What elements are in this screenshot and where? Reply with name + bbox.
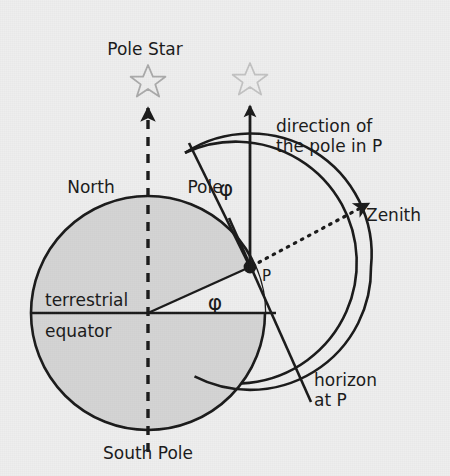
zenith-label: Zenith — [366, 205, 421, 225]
point-p-label: P — [262, 267, 271, 285]
phi-lower-label: φ — [208, 290, 223, 315]
south-pole-label: South Pole — [103, 443, 193, 463]
star-icon-pole-star-axis — [131, 65, 166, 97]
figure-canvas: Pole Star direction of the pole in P Nor… — [0, 0, 450, 476]
north-pole-label: North — [67, 177, 115, 197]
horizon-label-line2: at P — [314, 390, 347, 410]
pole-direction-label-line1: direction of — [276, 116, 373, 136]
pole-direction-label-line2: the pole in P — [276, 136, 382, 156]
north-pole-label-part2: Pole — [187, 177, 222, 197]
point-p-marker — [244, 261, 257, 274]
equator-label: equator — [45, 321, 112, 341]
phi-upper-label: φ — [219, 176, 234, 201]
terrestrial-label: terrestrial — [45, 290, 128, 310]
pole-star-label: Pole Star — [107, 39, 183, 59]
zenith-dotted-arrow — [252, 204, 368, 266]
star-icon-pole-star-p — [233, 63, 268, 95]
horizon-label-line1: horizon — [314, 370, 377, 390]
celestial-pole-latitude-diagram: Pole Star direction of the pole in P Nor… — [0, 0, 450, 476]
